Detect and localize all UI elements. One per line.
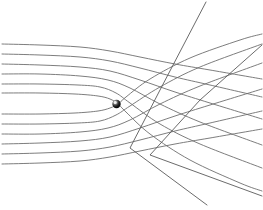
point-mass-sphere	[112, 100, 120, 108]
field-line-diagram: Deflection of parallel field lines by a …	[0, 0, 263, 210]
point-mass-highlight	[114, 101, 117, 104]
field-line-canvas	[0, 0, 263, 210]
point-mass-marker	[112, 100, 120, 108]
